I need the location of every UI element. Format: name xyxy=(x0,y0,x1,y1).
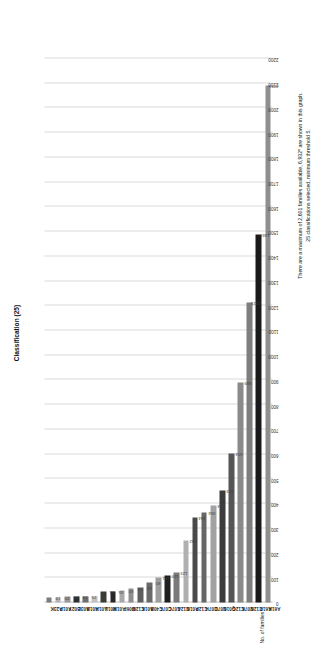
bar-value-label: 80 xyxy=(155,580,160,585)
bar-value-label: 24 xyxy=(82,594,87,599)
x-tick-label: 1300 xyxy=(268,279,278,284)
x-tick-label: 1200 xyxy=(268,304,278,309)
bar-value-label: 45 xyxy=(119,589,124,594)
chart-title: Classification (25) xyxy=(12,0,19,665)
bar-value-label: 252 xyxy=(189,538,196,543)
bar xyxy=(192,517,198,602)
bar xyxy=(210,505,216,602)
x-tick-label: 900 xyxy=(270,378,278,383)
bar xyxy=(201,512,207,602)
bar-value-label: 55 xyxy=(137,586,142,591)
x-tick-label: 1600 xyxy=(268,205,278,210)
x-tick-label: 1400 xyxy=(268,254,278,259)
bar xyxy=(255,234,261,602)
bar-value-label: 123 xyxy=(180,570,187,575)
bar-value-label: 26 xyxy=(100,594,105,599)
x-tick-label: 500 xyxy=(270,477,278,482)
bar-value-label: 62 xyxy=(146,585,151,590)
x-tick-label: 1000 xyxy=(268,353,278,358)
bar-value-label: 604 xyxy=(235,451,242,456)
bar-value-label: 889 xyxy=(244,380,251,385)
x-tick-label: 800 xyxy=(270,403,278,408)
bar-value-label: 394 xyxy=(216,503,223,508)
bar-series xyxy=(44,58,272,602)
plot-area xyxy=(44,58,272,602)
x-tick-label: 300 xyxy=(270,526,278,531)
annotation-line-1: There are a maximum of 2,601 families av… xyxy=(296,55,304,315)
bar xyxy=(265,85,271,602)
bar-value-label: 20 xyxy=(64,595,69,600)
x-tick-label: 200 xyxy=(270,551,278,556)
x-tick-label: 100 xyxy=(270,576,278,581)
chart-annotation: There are a maximum of 2,601 families av… xyxy=(296,55,311,315)
annotation-line-2: 25 classifications selected, minimum thr… xyxy=(304,55,312,315)
bar-value-label: 364 xyxy=(207,510,214,515)
x-tick-label: 1800 xyxy=(268,155,278,160)
bar xyxy=(246,302,252,602)
bar-value-label: 2091 xyxy=(269,83,279,88)
bar xyxy=(46,597,52,602)
category-label: A61K xyxy=(268,605,280,610)
bar-value-label: 44 xyxy=(109,589,114,594)
bar-value-label: 19 xyxy=(55,595,60,600)
bar-value-label: 25 xyxy=(91,594,96,599)
x-tick-label: 1700 xyxy=(268,180,278,185)
bar-value-label: 23 xyxy=(73,594,78,599)
x-tick-label: 600 xyxy=(270,452,278,457)
bar-value-label: 453 xyxy=(226,488,233,493)
x-tick-label: 2000 xyxy=(268,106,278,111)
bar-value-label: 110 xyxy=(171,573,178,578)
x-tick-label: 1100 xyxy=(268,328,278,333)
x-axis-title: No. of families xyxy=(258,611,264,643)
x-tick-label: 2200 xyxy=(268,56,278,61)
x-tick-label: 1900 xyxy=(268,131,278,136)
bar-value-label: 344 xyxy=(198,515,205,520)
bar-value-label: 1215 xyxy=(250,300,260,305)
bar-value-label: 1487 xyxy=(260,232,270,237)
x-tick-label: 400 xyxy=(270,502,278,507)
x-tick-label: 700 xyxy=(270,427,278,432)
chart-figure: Classification (25) 01002003004005006007… xyxy=(0,0,334,665)
bar-value-label: 101 xyxy=(162,575,169,580)
bar xyxy=(228,453,234,602)
bar xyxy=(237,382,243,602)
bar-value-label: 50 xyxy=(128,588,133,593)
